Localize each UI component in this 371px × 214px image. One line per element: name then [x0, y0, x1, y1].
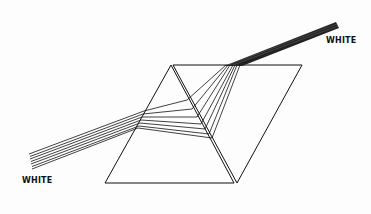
converging-rays	[187, 65, 240, 138]
prism-diagram: WHITE WHITE	[0, 0, 371, 214]
input-beam-label: WHITE	[22, 176, 52, 185]
second-prism	[173, 65, 302, 183]
prism-drawing	[0, 0, 371, 214]
dispersed-rays	[138, 100, 212, 138]
input-beam	[29, 111, 144, 169]
output-beam	[224, 22, 339, 66]
output-beam-label: WHITE	[326, 36, 356, 45]
